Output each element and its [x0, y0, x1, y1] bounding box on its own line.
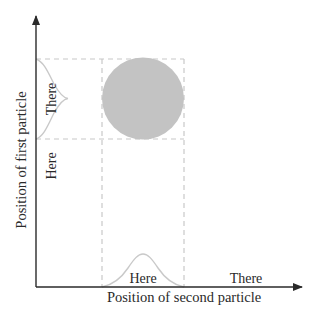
probability-blob	[102, 58, 184, 140]
y-axis-title: Position of first particle	[13, 91, 29, 228]
x-label-there: There	[230, 271, 263, 286]
y-label-there: There	[44, 83, 59, 116]
x-axis-title: Position of second particle	[107, 289, 261, 305]
x-label-here: Here	[129, 271, 156, 286]
diagram-canvas: There Here Position of first particle He…	[0, 0, 323, 316]
y-label-here: Here	[44, 152, 59, 179]
